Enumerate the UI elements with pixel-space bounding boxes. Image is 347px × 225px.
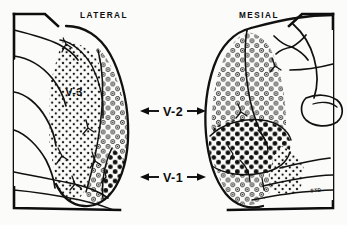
mesial-view-label: MESIAL (239, 11, 279, 20)
v1-label: V-1 (163, 171, 183, 185)
v2-label: V-2 (163, 105, 183, 119)
lateral-view-label: LATERAL (80, 11, 128, 20)
artist-signature: STD (310, 187, 321, 194)
v3-label: V-3 (65, 86, 82, 98)
cortex-diagram-svg: V-3 (0, 0, 347, 225)
figure-container: V-3 (0, 0, 347, 225)
